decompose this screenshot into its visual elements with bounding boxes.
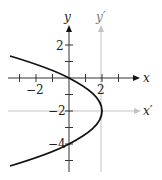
tick-label-x-2: 2 xyxy=(97,83,105,97)
y-axis-label: y xyxy=(63,10,71,24)
y-prime-arrow-icon xyxy=(98,25,104,32)
tick-label-x-neg2: −2 xyxy=(26,83,44,97)
parabola-chart: y y′ x x′ −2 2 2 −2 −4 xyxy=(0,0,162,180)
x-axis-label: x xyxy=(143,71,150,85)
x-arrow-icon xyxy=(133,75,140,81)
tick-label-y-2: 2 xyxy=(56,39,64,53)
x-prime-axis-label: x′ xyxy=(143,104,153,118)
y-prime-axis-label: y′ xyxy=(95,10,106,24)
tick-label-y-neg4: −4 xyxy=(48,137,66,151)
x-prime-arrow-icon xyxy=(134,108,141,114)
translated-axes xyxy=(8,25,141,172)
y-arrow-icon xyxy=(66,25,72,32)
tick-label-y-neg2: −2 xyxy=(48,104,66,118)
main-axes xyxy=(8,25,140,172)
